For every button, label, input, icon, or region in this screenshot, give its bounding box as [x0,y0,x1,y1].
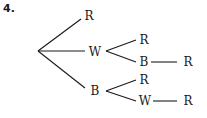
tree-node-label: R [139,74,148,86]
tree-edge-root-n3 [38,51,85,88]
tree-node-label: B [91,85,100,97]
tree-diagram: 4. RWBRBRRWR [0,0,207,118]
tree-node-label: W [89,46,101,58]
tree-edge-n2-n4 [106,40,136,51]
tree-node-label: R [84,10,93,22]
tree-edge-n3-n7 [106,80,136,91]
tree-edges [0,0,207,118]
tree-node-label: R [139,34,148,46]
tree-edge-root-n1 [38,19,81,51]
tree-edge-n3-n8 [106,91,136,101]
tree-node-label: W [139,95,151,107]
tree-node-label: R [183,56,192,68]
tree-edge-n2-n5 [106,51,136,62]
tree-node-label: R [183,95,192,107]
tree-node-label: B [140,56,149,68]
